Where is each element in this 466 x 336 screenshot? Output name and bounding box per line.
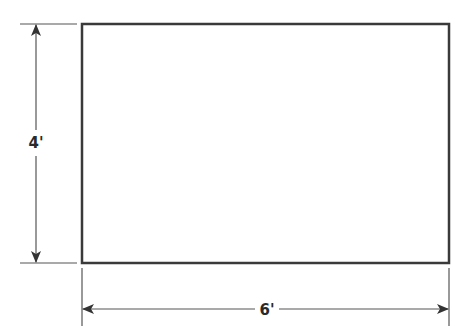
dimension-diagram: 4' 6' bbox=[0, 0, 466, 336]
rectangle-shape bbox=[82, 24, 449, 263]
width-dimension: 6' bbox=[83, 301, 448, 319]
height-label: 4' bbox=[28, 134, 43, 152]
height-dimension: 4' bbox=[28, 25, 43, 262]
width-label: 6' bbox=[259, 301, 274, 319]
